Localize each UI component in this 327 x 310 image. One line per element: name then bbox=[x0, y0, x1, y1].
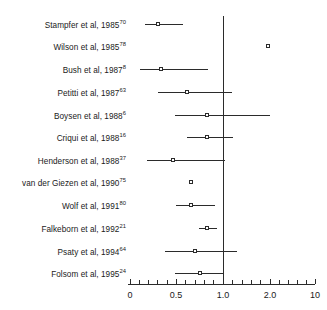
study-reference-superscript: 80 bbox=[119, 200, 126, 206]
study-label: Wilson et al, 198578 bbox=[53, 42, 126, 52]
x-axis-tick-label: 0 bbox=[110, 291, 150, 300]
study-label: Henderson et al, 198837 bbox=[38, 156, 126, 166]
study-label: Boysen et al, 19886 bbox=[54, 111, 126, 121]
point-estimate-marker bbox=[159, 67, 164, 72]
x-axis-minor-tick bbox=[139, 280, 140, 284]
confidence-interval-line bbox=[165, 251, 237, 252]
study-label: Psaty et al, 199464 bbox=[58, 247, 126, 257]
forest-plot: Stampfer et al, 198570Wilson et al, 1985… bbox=[0, 0, 327, 310]
x-axis-minor-tick bbox=[195, 280, 196, 284]
study-label: Wolf et al, 199180 bbox=[62, 201, 126, 211]
x-axis-minor-tick bbox=[232, 280, 233, 284]
x-axis-minor-tick bbox=[288, 280, 289, 284]
x-axis-major-tick bbox=[130, 279, 131, 284]
study-label: van der Giezen et al, 199075 bbox=[22, 178, 126, 188]
point-estimate-marker bbox=[205, 113, 210, 118]
confidence-interval-line bbox=[140, 69, 208, 70]
x-axis-minor-tick bbox=[279, 280, 280, 284]
study-label-text: Folsom et al, 1995 bbox=[51, 270, 119, 279]
reference-line-1.0 bbox=[223, 16, 224, 284]
study-label-text: Petitti et al, 1987 bbox=[57, 89, 119, 98]
study-reference-superscript: 24 bbox=[119, 268, 126, 274]
x-axis-minor-tick bbox=[251, 280, 252, 284]
study-label: Petitti et al, 198763 bbox=[57, 88, 126, 98]
point-estimate-marker bbox=[266, 44, 271, 49]
confidence-interval-line bbox=[145, 24, 183, 25]
point-estimate-marker bbox=[189, 180, 194, 185]
x-axis-minor-tick bbox=[242, 280, 243, 284]
x-axis-tick-label: 1.0 bbox=[203, 291, 243, 300]
study-reference-superscript: 75 bbox=[119, 177, 126, 183]
confidence-interval-line bbox=[176, 205, 215, 206]
study-reference-superscript: 37 bbox=[119, 155, 126, 161]
x-axis-minor-tick bbox=[213, 280, 214, 284]
study-label-text: van der Giezen et al, 1990 bbox=[22, 179, 119, 188]
study-reference-superscript: 21 bbox=[119, 223, 126, 229]
x-axis-tick-label: 10 bbox=[295, 291, 327, 300]
study-label-text: Stampfer et al, 1985 bbox=[45, 21, 120, 30]
x-axis-major-tick bbox=[315, 279, 316, 284]
study-reference-superscript: 64 bbox=[119, 246, 126, 252]
study-label-text: Wilson et al, 1985 bbox=[53, 43, 119, 52]
point-estimate-marker bbox=[171, 158, 176, 163]
x-axis-minor-tick bbox=[260, 280, 261, 284]
study-label-text: Wolf et al, 1991 bbox=[62, 202, 120, 211]
study-reference-superscript: 63 bbox=[119, 87, 126, 93]
confidence-interval-line bbox=[175, 115, 270, 116]
x-axis-major-tick bbox=[270, 279, 271, 284]
point-estimate-marker bbox=[205, 135, 210, 140]
study-label-text: Henderson et al, 1988 bbox=[38, 157, 120, 166]
x-axis-minor-tick bbox=[204, 280, 205, 284]
study-label: Criqui et al, 198816 bbox=[57, 133, 126, 143]
x-axis-line bbox=[128, 284, 315, 285]
x-axis-minor-tick bbox=[297, 280, 298, 284]
study-reference-superscript: 16 bbox=[119, 132, 126, 138]
point-estimate-marker bbox=[205, 226, 210, 231]
x-axis-major-tick bbox=[223, 279, 224, 284]
point-estimate-marker bbox=[193, 249, 198, 254]
study-reference-superscript: 8 bbox=[123, 64, 126, 70]
study-reference-superscript: 6 bbox=[123, 110, 126, 116]
study-label-text: Psaty et al, 1994 bbox=[58, 248, 120, 257]
x-axis-tick-label: 0.5 bbox=[156, 291, 196, 300]
study-label: Folsom et al, 199524 bbox=[51, 269, 126, 279]
study-label: Stampfer et al, 198570 bbox=[45, 20, 126, 30]
study-label-text: Criqui et al, 1988 bbox=[57, 134, 120, 143]
x-axis-major-tick bbox=[176, 279, 177, 284]
x-axis-minor-tick bbox=[306, 280, 307, 284]
x-axis-minor-tick bbox=[185, 280, 186, 284]
point-estimate-marker bbox=[189, 203, 194, 208]
study-reference-superscript: 78 bbox=[119, 41, 126, 47]
study-label: Falkeborn et al, 199221 bbox=[41, 224, 126, 234]
study-label-text: Falkeborn et al, 1992 bbox=[41, 225, 119, 234]
confidence-interval-line bbox=[147, 160, 225, 161]
x-axis-tick-label: 2.0 bbox=[250, 291, 290, 300]
confidence-interval-line bbox=[187, 137, 233, 138]
x-axis-minor-tick bbox=[148, 280, 149, 284]
study-label-text: Bush et al, 1987 bbox=[63, 66, 123, 75]
study-label-text: Boysen et al, 1988 bbox=[54, 112, 123, 121]
point-estimate-marker bbox=[198, 271, 203, 276]
confidence-interval-line bbox=[158, 92, 232, 93]
point-estimate-marker bbox=[185, 90, 190, 95]
study-reference-superscript: 70 bbox=[119, 19, 126, 25]
study-label: Bush et al, 19878 bbox=[63, 65, 126, 75]
point-estimate-marker bbox=[156, 22, 161, 27]
x-axis-minor-tick bbox=[167, 280, 168, 284]
x-axis-minor-tick bbox=[157, 280, 158, 284]
